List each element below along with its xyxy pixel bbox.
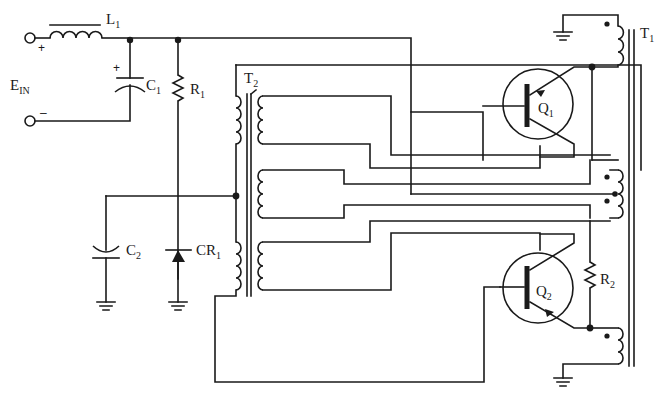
C1-polarity: + xyxy=(113,61,120,75)
transistor-Q1: Q1 xyxy=(483,67,592,157)
input-terminals: + – EIN xyxy=(10,33,47,126)
input-plus-terminal xyxy=(25,33,35,43)
R2-label: R2 xyxy=(600,271,615,290)
circuit-schematic: + – EIN L1 + C1 R1 C2 xyxy=(0,0,665,407)
transformer-T1: R2 T1 xyxy=(411,15,654,386)
input-voltage-label: EIN xyxy=(10,77,30,96)
transistor-Q2: Q2 xyxy=(500,234,592,328)
C2-label: C2 xyxy=(126,242,141,261)
input-plus-sign: + xyxy=(38,41,45,55)
Q1-label: Q1 xyxy=(538,100,554,119)
Q2-label: Q2 xyxy=(536,283,552,302)
R1-label: R1 xyxy=(190,81,205,100)
CR1-label: CR1 xyxy=(196,242,221,261)
diode-CR1: CR1 xyxy=(166,242,221,310)
capacitor-C2: C2 xyxy=(93,196,141,310)
L1-label: L1 xyxy=(106,11,120,30)
capacitor-C1: + C1 xyxy=(35,40,161,121)
T1-label: T1 xyxy=(640,25,654,44)
input-minus-sign: – xyxy=(40,106,47,120)
inductor-L1: L1 xyxy=(35,11,130,38)
C1-label: C1 xyxy=(146,77,161,96)
input-minus-terminal xyxy=(25,116,35,126)
T2-label: T2 xyxy=(244,70,258,89)
